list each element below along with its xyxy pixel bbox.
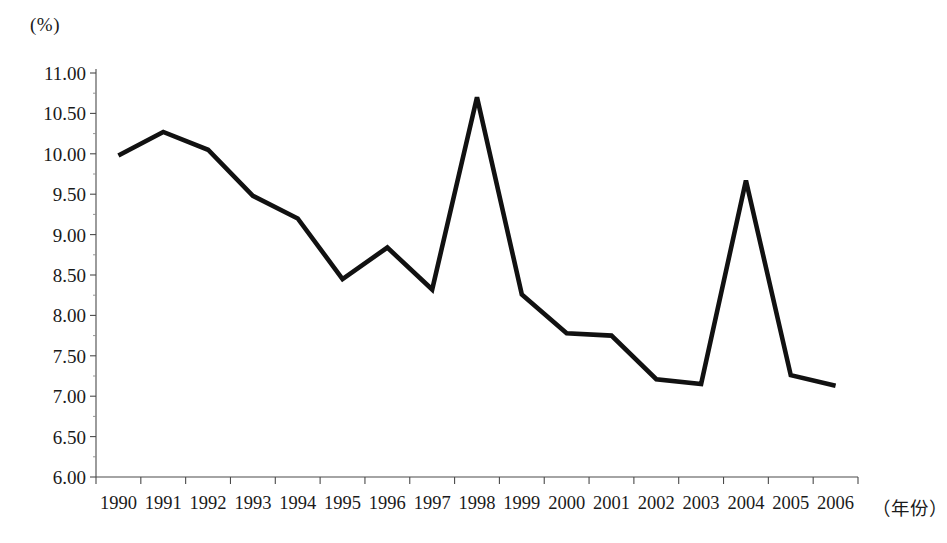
x-axis-tick-label: 1996 — [369, 494, 406, 513]
x-axis-tick-label: 1990 — [100, 494, 137, 513]
x-axis-tick-label: 1998 — [459, 494, 496, 513]
x-axis-tick-label-group: 1990199119921993199419951996199719981999… — [0, 0, 947, 543]
x-axis-tick-label: 1991 — [145, 494, 182, 513]
x-axis-tick-label: 2002 — [638, 494, 675, 513]
x-axis-tick-label: 1997 — [414, 494, 451, 513]
x-axis-tick-label: 1999 — [503, 494, 540, 513]
x-axis-tick-label: 1993 — [234, 494, 271, 513]
x-axis-tick-label: 2003 — [683, 494, 720, 513]
x-axis-tick-label: 2001 — [593, 494, 630, 513]
x-axis-tick-label: 2005 — [772, 494, 809, 513]
x-axis-tick-label: 1992 — [190, 494, 227, 513]
line-chart: (%) 11.0010.5010.009.509.008.508.007.507… — [0, 0, 947, 543]
x-axis-tick-label: 2004 — [727, 494, 764, 513]
x-axis-tick-label: 1995 — [324, 494, 361, 513]
x-axis-unit-label: （年份） — [872, 494, 947, 520]
x-axis-tick-label: 1994 — [279, 494, 316, 513]
figure-caption — [0, 533, 947, 543]
x-axis-tick-label: 2000 — [548, 494, 585, 513]
x-axis-tick-label: 2006 — [817, 494, 854, 513]
